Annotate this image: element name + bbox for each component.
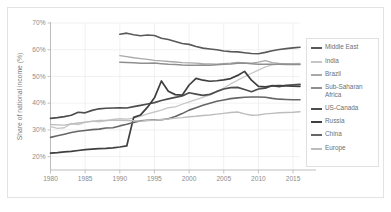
series-lines <box>51 33 301 153</box>
legend-swatch-icon <box>311 87 322 89</box>
x-tick-label: 1980 <box>43 175 58 182</box>
legend-swatch-icon <box>311 134 322 136</box>
legend-swatch-icon <box>311 121 322 123</box>
y-tick-label: 60% <box>32 46 45 53</box>
legend-item-brazil[interactable]: Brazil <box>311 70 341 78</box>
y-tick-label: 70% <box>32 19 45 26</box>
x-tick-label: 2015 <box>286 175 301 182</box>
legend-item-india[interactable]: India <box>311 57 339 65</box>
x-tick-label: 1995 <box>147 175 162 182</box>
legend-item-label: US-Canada <box>325 104 358 112</box>
legend-item-label: Europe <box>325 144 346 152</box>
legend-item-russia[interactable]: Russia <box>311 117 345 125</box>
series-line-us-canada <box>51 84 301 118</box>
legend-swatch-icon <box>311 108 322 110</box>
legend-item-label: Middle East <box>325 43 358 51</box>
chart-figure: 20%30%40%50%60%70%1980198519901995200020… <box>0 0 391 212</box>
legend-item-label: Russia <box>325 117 345 125</box>
legend-item-label: Sub-Saharan Africa <box>325 83 363 98</box>
y-axis-title-text: Share of national income (%) <box>16 53 24 141</box>
x-tick-label: 2005 <box>216 175 231 182</box>
legend-item-label: Brazil <box>325 70 341 78</box>
legend-item-label: India <box>325 57 339 65</box>
x-tick-label: 1985 <box>78 175 93 182</box>
legend-swatch-icon <box>311 148 322 150</box>
x-tick-label: 2010 <box>251 175 266 182</box>
legend-item-middle-east[interactable]: Middle East <box>311 43 358 51</box>
legend-item-china[interactable]: China <box>311 130 342 138</box>
y-tick-label: 40% <box>32 99 45 106</box>
y-tick-label: 30% <box>32 126 45 133</box>
x-tick-label: 1990 <box>112 175 127 182</box>
legend-item-europe[interactable]: Europe <box>311 144 346 152</box>
chart-legend: Middle EastIndiaBrazilSub-Saharan Africa… <box>306 38 379 167</box>
series-line-europe <box>51 112 301 125</box>
y-tick-label: 20% <box>32 153 45 160</box>
y-tick-label: 50% <box>32 73 45 80</box>
legend-item-us-canada[interactable]: US-Canada <box>311 104 358 112</box>
x-tick-label: 2000 <box>182 175 197 182</box>
axis-tick-labels: 20%30%40%50%60%70%1980198519901995200020… <box>32 19 300 182</box>
series-line-middle-east <box>120 33 300 54</box>
y-axis-title: Share of national income (%) <box>16 53 24 141</box>
legend-swatch-icon <box>311 74 322 76</box>
legend-swatch-icon <box>311 47 322 49</box>
legend-item-sub-saharan-africa[interactable]: Sub-Saharan Africa <box>311 83 363 98</box>
legend-item-label: China <box>325 130 342 138</box>
legend-swatch-icon <box>311 61 322 63</box>
